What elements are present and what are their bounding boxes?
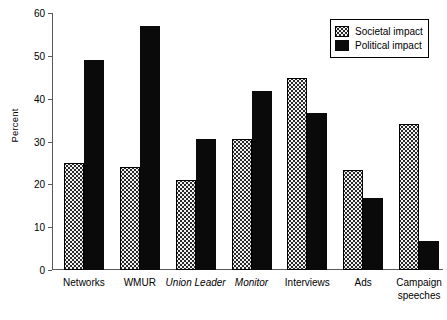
legend-label-societal: Societal impact <box>355 26 423 37</box>
bar-societal <box>399 124 419 270</box>
y-tick-mark <box>48 56 52 57</box>
y-tick-mark <box>48 227 52 228</box>
bar-societal <box>287 78 307 270</box>
bar-political <box>252 91 272 270</box>
y-tick-mark <box>48 142 52 143</box>
bar-political <box>307 113 327 270</box>
x-axis-label: Campaign speeches <box>376 276 447 302</box>
legend-entry-political: Political impact <box>335 39 423 52</box>
bar-political <box>140 26 160 270</box>
y-tick-mark <box>48 99 52 100</box>
bar-societal <box>64 163 84 270</box>
y-tick-label: 40 <box>34 93 45 104</box>
bar-political <box>419 241 439 270</box>
y-tick-mark <box>48 270 52 271</box>
y-tick-mark <box>48 184 52 185</box>
y-tick-label: 30 <box>34 136 45 147</box>
legend-label-political: Political impact <box>355 40 422 51</box>
bar-group <box>64 13 104 270</box>
bar-societal <box>120 167 140 270</box>
bar-group <box>232 13 272 270</box>
bar-societal <box>343 170 363 270</box>
bar-group <box>176 13 216 270</box>
bar-societal <box>232 139 252 270</box>
bar-chart: Percent 0102030405060 NetworksWMURUnion … <box>0 0 447 320</box>
y-tick-label: 20 <box>34 179 45 190</box>
bar-political <box>363 198 383 270</box>
chart-legend: Societal impact Political impact <box>330 19 429 58</box>
bar-group <box>120 13 160 270</box>
bar-political <box>84 60 104 270</box>
legend-entry-societal: Societal impact <box>335 25 423 38</box>
y-tick-mark <box>48 13 52 14</box>
y-tick-label: 50 <box>34 50 45 61</box>
legend-swatch-societal-icon <box>335 26 349 37</box>
y-tick-label: 10 <box>34 222 45 233</box>
bar-societal <box>176 180 196 270</box>
y-axis-title: Percent <box>9 86 20 166</box>
y-tick-label: 60 <box>34 8 45 19</box>
legend-swatch-political-icon <box>335 40 349 51</box>
y-tick-label: 0 <box>39 265 45 276</box>
y-axis-line <box>52 13 53 270</box>
bar-group <box>287 13 327 270</box>
bar-political <box>196 139 216 270</box>
